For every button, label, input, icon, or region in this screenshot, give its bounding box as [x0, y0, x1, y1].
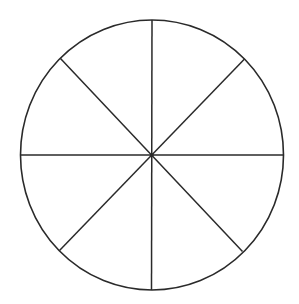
center-point	[150, 153, 154, 157]
sector-circle-diagram	[0, 0, 299, 304]
